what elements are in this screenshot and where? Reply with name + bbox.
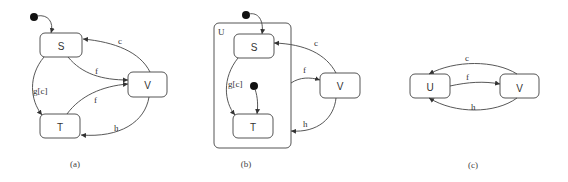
- state-v-label: V: [516, 83, 523, 94]
- transition-c-label: c: [465, 53, 469, 63]
- state-u[interactable]: U: [410, 74, 450, 98]
- initial-state-marker-s: [242, 11, 250, 19]
- initial-state-marker-t: [250, 82, 258, 90]
- transition-f-label: f: [303, 65, 306, 75]
- transition-f-from-s-label: f: [95, 66, 98, 76]
- initial-transition-to-s: [249, 14, 262, 34]
- initial-transition-to-t: [255, 89, 258, 114]
- state-u-label: U: [426, 82, 433, 93]
- transition-g-label: g[c]: [33, 86, 48, 96]
- state-v[interactable]: V: [128, 72, 167, 97]
- state-s[interactable]: S: [234, 34, 274, 58]
- transition-f-label: f: [466, 72, 469, 82]
- state-v-label: V: [144, 80, 151, 91]
- state-s-label: S: [251, 42, 258, 53]
- superstate-u-label: U: [218, 27, 225, 37]
- state-v[interactable]: V: [320, 73, 360, 98]
- initial-state-marker: [30, 13, 38, 21]
- transition-h: [291, 98, 336, 131]
- transition-f-from-t-label: f: [94, 95, 97, 105]
- transition-f-from-t: [67, 84, 128, 114]
- transition-c: [429, 64, 517, 75]
- statechart-figure: S V T c f f g[c] h (a) U: [0, 0, 568, 182]
- transition-g-label: g[c]: [228, 79, 243, 89]
- state-s-label: S: [58, 41, 65, 52]
- state-t-label: T: [250, 122, 256, 133]
- caption-a: (a): [70, 159, 80, 169]
- state-t-label: T: [57, 122, 63, 133]
- transition-c-label: c: [314, 38, 318, 48]
- transition-f-from-s: [68, 57, 128, 80]
- caption-b: (b): [241, 159, 252, 169]
- state-v-label: V: [337, 81, 344, 92]
- state-v[interactable]: V: [500, 74, 539, 98]
- transition-c: [83, 39, 150, 72]
- state-t[interactable]: T: [40, 114, 80, 138]
- caption-c: (c): [468, 160, 478, 170]
- panel-c: U V c f h (c): [410, 53, 539, 170]
- initial-transition-to-s: [37, 16, 52, 33]
- transition-h-label: h: [303, 119, 308, 129]
- transition-h-label: h: [471, 102, 476, 112]
- panel-b: U S T V g[c] c f: [214, 11, 360, 169]
- panel-a: S V T c f f g[c] h (a): [30, 13, 167, 169]
- transition-f: [291, 78, 320, 83]
- transition-f: [450, 82, 500, 86]
- state-t[interactable]: T: [233, 114, 273, 138]
- transition-h-label: h: [114, 123, 119, 133]
- transition-c-label: c: [118, 36, 122, 46]
- state-s[interactable]: S: [40, 33, 82, 57]
